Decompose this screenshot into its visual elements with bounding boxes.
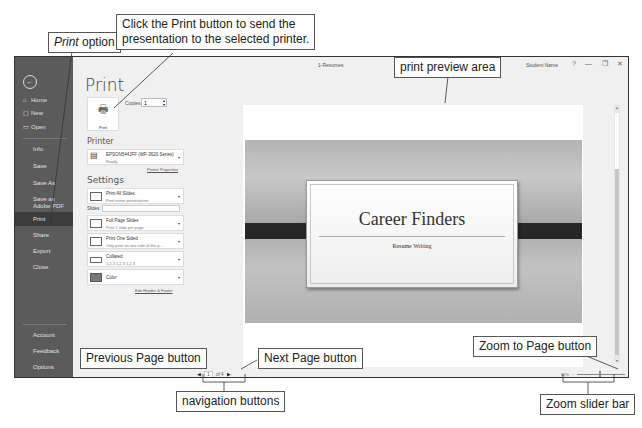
print-button-label: Print: [88, 125, 118, 130]
edit-header-footer-link[interactable]: Edit Header & Footer: [135, 288, 173, 293]
chevron-down-icon: ▾: [178, 221, 180, 226]
setting-title: Print All Slides: [106, 191, 135, 196]
sidebar-item-home[interactable]: ⌂Home: [15, 94, 73, 106]
close-icon[interactable]: ✕: [617, 60, 623, 68]
chevron-down-icon: ▾: [178, 194, 180, 199]
slide-right-band: [514, 223, 582, 239]
chevron-down-icon: ▾: [178, 257, 180, 262]
sidebar-divider: [23, 138, 67, 139]
collation-dropdown[interactable]: Collated 1,2,3 1,2,3 1,2,3 ▾: [87, 251, 184, 267]
setting-title: Full Page Slides: [106, 218, 139, 223]
print-settings-panel: Print 🖶 Print Copies: 1▴▾ Printer ▤ EPSO…: [73, 57, 233, 377]
copies-stepper[interactable]: 1▴▾: [141, 98, 167, 107]
printer-name: EPSON544JFF (WF-3620 Series): [106, 152, 174, 157]
next-page-button[interactable]: ▶: [227, 371, 231, 377]
sidebar-item-label: New: [31, 110, 43, 116]
slides-input[interactable]: [102, 205, 180, 212]
slide-left-band: [245, 223, 308, 239]
printer-heading: Printer: [87, 137, 114, 146]
setting-title: Print One Sided: [106, 236, 138, 241]
callout-print-option-italic: Print: [54, 35, 79, 49]
sides-dropdown[interactable]: Print One Sided Only print on one side o…: [87, 233, 184, 249]
sidebar-item-close[interactable]: Close: [15, 261, 73, 273]
scroll-down-icon[interactable]: ▾: [614, 358, 620, 363]
sidebar-item-label: Open: [31, 124, 46, 130]
print-range-dropdown[interactable]: Print All Slides Print entire presentati…: [87, 188, 184, 204]
sidebar-item-save-as-pdf[interactable]: Save as Adobe PDF: [15, 194, 73, 212]
sidebar-item-info[interactable]: Info: [15, 143, 73, 155]
slides-label: Slides:: [87, 206, 101, 211]
powerpoint-window: ← ⌂Home ▢New ▭Open Info Save Save As Sav…: [14, 56, 629, 378]
zoom-slider-knob[interactable]: [599, 371, 601, 378]
color-dropdown[interactable]: Color ▾: [87, 269, 184, 285]
scrollbar-track[interactable]: [615, 169, 619, 355]
slide-subtitle: Resume Writing: [307, 243, 517, 249]
full-page-slide-icon: [90, 219, 102, 228]
sidebar-item-save-as[interactable]: Save As: [15, 177, 73, 189]
sidebar-item-options[interactable]: Options: [15, 361, 73, 373]
sidebar-item-label: Home: [31, 97, 47, 103]
sidebar-item-export[interactable]: Export: [15, 245, 73, 257]
callout-print-button-line1: Click the Print button to send the: [122, 17, 309, 32]
callout-print-option-text: option: [79, 35, 115, 49]
sidebar-item-share[interactable]: Share: [15, 229, 73, 241]
setting-title: Color: [106, 275, 117, 280]
setting-subtitle: Print entire presentation: [106, 198, 148, 203]
chevron-down-icon: ▾: [178, 155, 180, 160]
collated-icon: [90, 257, 102, 263]
new-document-icon: ▢: [23, 107, 31, 119]
copies-label: Copies:: [125, 100, 142, 106]
sidebar-divider: [23, 324, 67, 325]
layout-dropdown[interactable]: Full Page Slides Print 1 slide per page …: [87, 215, 184, 231]
zoom-out-button[interactable]: −: [572, 372, 574, 377]
setting-subtitle: Print 1 slide per page: [106, 225, 144, 230]
home-icon: ⌂: [23, 94, 31, 106]
restore-icon[interactable]: ❐: [602, 60, 608, 68]
preview-page: Career Finders Resume Writing: [243, 105, 583, 367]
print-button[interactable]: 🖶 Print: [87, 97, 119, 131]
sidebar-item-new[interactable]: ▢New: [15, 107, 73, 119]
printer-icon: ▤: [90, 151, 102, 160]
zoom-slider[interactable]: [577, 374, 625, 375]
scroll-up-icon[interactable]: ▴: [614, 105, 620, 110]
slides-icon: [90, 192, 102, 201]
zoom-percent[interactable]: 62%: [561, 372, 569, 377]
sidebar-item-feedback[interactable]: Feedback: [15, 345, 73, 357]
printer-properties-link[interactable]: Printer Properties: [147, 167, 178, 172]
callout-navigation-buttons: navigation buttons: [176, 391, 285, 412]
sidebar-item-save[interactable]: Save: [15, 160, 73, 172]
setting-title: Collated: [106, 254, 123, 259]
sidebar-item-open[interactable]: ▭Open: [15, 121, 73, 133]
scrollbar-thumb[interactable]: [615, 113, 619, 169]
callout-next-page: Next Page button: [258, 348, 363, 369]
minimize-icon[interactable]: —: [585, 60, 592, 67]
callout-print-button-line2: presentation to the selected printer.: [122, 32, 309, 47]
chevron-down-icon: ▾: [178, 239, 180, 244]
callout-preview-area: print preview area: [394, 57, 501, 78]
zoom-controls: 62% − + ⊡: [561, 370, 629, 378]
chevron-down-icon: ▾: [178, 275, 180, 280]
folder-icon: ▭: [23, 121, 31, 133]
zoom-in-button[interactable]: +: [628, 372, 629, 377]
user-name[interactable]: Student Name: [526, 62, 558, 68]
slide-title-rule: [319, 236, 505, 237]
sidebar-item-account[interactable]: Account: [15, 329, 73, 341]
print-preview-area: 1-Resumes Student Name ? — ❐ ✕ Career Fi…: [233, 57, 628, 377]
printer-status: Ready: [106, 159, 118, 164]
page-count: of 4: [216, 372, 224, 377]
one-sided-icon: [90, 237, 102, 246]
back-arrow-icon[interactable]: ←: [23, 75, 37, 89]
copies-value: 1: [144, 100, 147, 106]
page-title: Print: [85, 75, 124, 95]
previous-page-button[interactable]: ◀: [197, 371, 201, 377]
sidebar-item-print[interactable]: Print: [15, 212, 73, 226]
spin-arrows-icon[interactable]: ▴▾: [163, 99, 165, 107]
current-page-input[interactable]: 1: [204, 371, 213, 378]
callout-print-button: Click the Print button to send the prese…: [116, 14, 315, 50]
callout-previous-page: Previous Page button: [80, 348, 207, 369]
callout-zoom-slider: Zoom slider bar: [540, 394, 635, 415]
vertical-scrollbar[interactable]: ▴ ▾: [614, 105, 620, 363]
setting-subtitle: Only print on one side of the p...: [106, 243, 163, 248]
printer-dropdown[interactable]: ▤ EPSON544JFF (WF-3620 Series) Ready ▾: [87, 149, 184, 165]
help-icon[interactable]: ?: [572, 60, 576, 67]
